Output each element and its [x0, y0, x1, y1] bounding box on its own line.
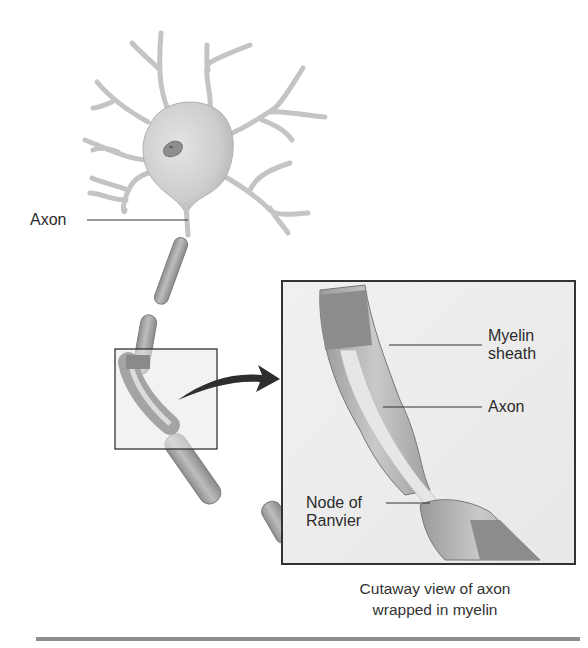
caption-line1: Cutaway view of axon	[290, 578, 580, 599]
diagram-canvas: Axon Myelin sheath Axon Node of Ranvier …	[0, 0, 588, 648]
node-of-ranvier-label-line2: Ranvier	[306, 511, 361, 530]
caption-line2: wrapped in myelin	[290, 599, 580, 620]
bottom-rule-divider	[36, 637, 580, 641]
figure-caption: Cutaway view of axon wrapped in myelin	[290, 578, 580, 620]
node-of-ranvier-label-line1: Node of	[306, 493, 362, 512]
axon-label-inset: Axon	[488, 397, 524, 416]
myelin-sheath-label-line1: Myelin	[488, 326, 534, 345]
neuron-illustration	[0, 0, 588, 648]
myelin-sheath-label-line2: sheath	[488, 344, 536, 363]
cell-body	[143, 102, 233, 214]
axon-label-main: Axon	[30, 210, 66, 229]
